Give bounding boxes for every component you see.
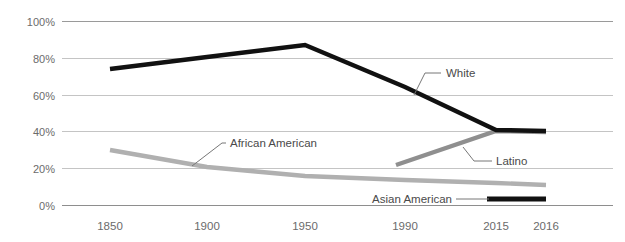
annotation-asian-american: Asian American xyxy=(372,193,489,205)
y-tick-label-60: 60% xyxy=(33,90,55,102)
y-tick-label-40: 40% xyxy=(33,126,55,138)
series-label-asian-american: Asian American xyxy=(372,193,452,205)
x-tick-label-2015: 2015 xyxy=(483,220,509,232)
x-tick-label-2016: 2016 xyxy=(533,220,559,232)
series-label-white: White xyxy=(446,67,475,79)
y-tick-label-100: 100% xyxy=(27,16,55,28)
series-label-latino: Latino xyxy=(496,155,527,167)
series-label-african-american: African American xyxy=(230,137,317,149)
leader-line-african-american xyxy=(192,143,226,166)
series-line-white xyxy=(110,45,546,131)
series-line-african-american xyxy=(110,150,546,185)
x-tick-label-1990: 1990 xyxy=(392,220,418,232)
annotation-latino: Latino xyxy=(463,147,527,167)
x-axis-ticks: 1850 1900 1950 1990 2015 2016 xyxy=(97,220,559,232)
chart-canvas: 100% 80% 60% 40% 20% 0% 1850 1900 1950 1… xyxy=(0,0,625,242)
y-tick-label-80: 80% xyxy=(33,53,55,65)
x-tick-label-1850: 1850 xyxy=(97,220,123,232)
leader-line-latino xyxy=(463,147,492,161)
annotation-white: White xyxy=(414,67,475,95)
annotation-african-american: African American xyxy=(192,137,317,166)
y-axis-ticks: 100% 80% 60% 40% 20% 0% xyxy=(27,16,55,212)
x-tick-label-1900: 1900 xyxy=(194,220,220,232)
x-tick-label-1950: 1950 xyxy=(292,220,318,232)
y-tick-label-20: 20% xyxy=(33,163,55,175)
line-chart: 100% 80% 60% 40% 20% 0% 1850 1900 1950 1… xyxy=(0,0,625,242)
y-tick-label-0: 0% xyxy=(39,200,55,212)
